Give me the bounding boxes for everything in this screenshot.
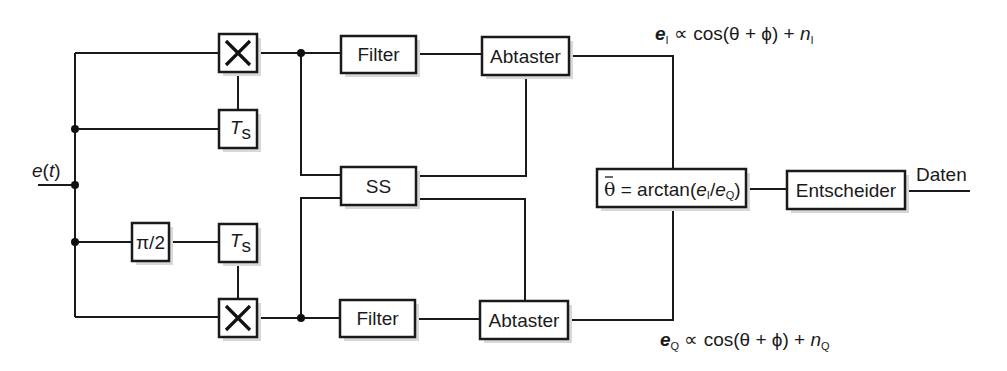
- phase-shifter: π/2: [132, 223, 173, 265]
- decider-block: Entscheider: [787, 171, 909, 213]
- filter-bottom: Filter: [340, 300, 419, 341]
- sync-block: SS: [341, 167, 420, 209]
- delay-bottom: Ts: [219, 224, 261, 266]
- wire-sampler-top-to-arctan: [569, 56, 673, 169]
- arctan-block: θ = arctan(eI/eQ): [597, 169, 750, 211]
- sampler-top: Abtaster: [482, 37, 573, 79]
- junction-dot: [297, 49, 305, 57]
- sampler-bottom-label: Abtaster: [489, 310, 560, 331]
- wire-top-branch-to-sync: [301, 53, 341, 175]
- multiplier-bottom: [219, 299, 261, 341]
- wire-bottom-branch-to-sync: [301, 198, 341, 318]
- junction-dot: [71, 238, 79, 246]
- junctions: [71, 49, 305, 322]
- equation-in-phase: eI ∝ cos(θ + ϕ) + nI: [655, 23, 814, 46]
- block-diagram: Ts π/2 Ts Filter Filter SS Abtaster: [0, 0, 1007, 371]
- filter-top: Filter: [341, 36, 420, 77]
- multiplier-top: [219, 34, 261, 76]
- sampler-top-label: Abtaster: [490, 46, 561, 67]
- output-label: Daten: [916, 164, 967, 185]
- arctan-label: θ = arctan(eI/eQ): [604, 178, 741, 201]
- filter-bottom-label: Filter: [356, 308, 399, 329]
- equation-quadrature: eQ ∝ cos(θ + ϕ) + nQ: [660, 329, 830, 352]
- filter-top-label: Filter: [357, 44, 400, 65]
- wire-sync-to-sampler-bottom: [416, 199, 525, 301]
- sync-block-label: SS: [366, 176, 391, 197]
- decider-label: Entscheider: [796, 180, 897, 201]
- phase-shifter-label: π/2: [136, 232, 165, 253]
- junction-dot: [71, 181, 79, 189]
- wire-sampler-bottom-to-arctan: [568, 207, 673, 320]
- wire-sync-to-sampler-top: [416, 75, 526, 176]
- junction-dot: [297, 314, 305, 322]
- input-label: e(t): [32, 160, 61, 181]
- delay-top: Ts: [219, 110, 261, 152]
- junction-dot: [71, 125, 79, 133]
- sampler-bottom: Abtaster: [480, 301, 572, 343]
